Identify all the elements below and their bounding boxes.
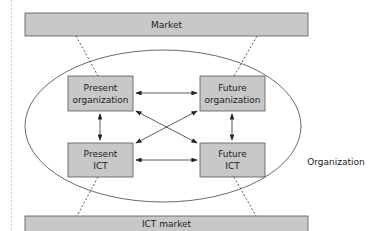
label-line: Future — [218, 148, 247, 160]
dashed-connector — [77, 177, 98, 216]
organization-ellipse — [25, 50, 301, 202]
label-line: organization — [205, 94, 261, 106]
dashed-connector — [234, 177, 256, 216]
label-line: ICT — [93, 160, 107, 172]
market-label: Market — [25, 13, 308, 36]
present-ict-label: Present ICT — [68, 143, 133, 177]
label-line: Present — [84, 82, 118, 94]
future-ict-label: Future ICT — [200, 143, 265, 177]
present-org-label: Present organization — [68, 76, 133, 111]
dashed-connector — [76, 36, 98, 76]
future-org-label: Future organization — [200, 76, 265, 111]
label-line: organization — [73, 94, 129, 106]
ict-market-label: ICT market — [25, 216, 308, 231]
label-line: Present — [84, 148, 118, 160]
label-line: ICT — [225, 160, 239, 172]
dashed-connector — [234, 36, 257, 76]
label-line: Future — [218, 82, 247, 94]
organization-label: Organization — [303, 155, 369, 169]
